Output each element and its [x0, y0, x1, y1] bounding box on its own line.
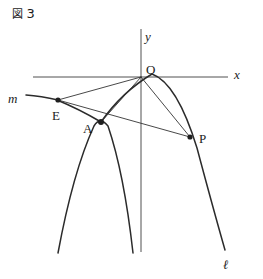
y-axis-label: y	[143, 29, 151, 44]
line-m	[26, 95, 58, 100]
line-m-label: m	[8, 91, 17, 106]
line-eap	[58, 100, 190, 137]
segment-op	[141, 77, 190, 137]
parabola-secondary-curve	[58, 121, 133, 253]
figure-container: 図3 y x O E A P m ℓ	[0, 0, 263, 279]
point-a-marker	[98, 119, 104, 125]
point-p-marker	[187, 134, 192, 139]
point-e-label: E	[52, 108, 60, 123]
segment-oa	[101, 77, 141, 122]
point-p-label: P	[199, 131, 206, 146]
geometry-figure: y x O E A P m ℓ	[0, 0, 263, 279]
point-a-label: A	[83, 121, 93, 136]
point-e-marker	[55, 97, 60, 102]
line-l-label: ℓ	[223, 257, 229, 272]
x-axis-label: x	[233, 67, 240, 82]
origin-label: O	[146, 62, 155, 77]
segment-oe	[58, 77, 141, 100]
